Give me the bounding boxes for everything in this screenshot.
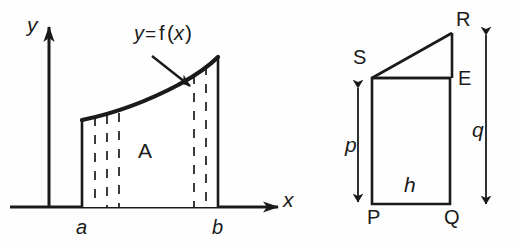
- right-diagram-group: S R E P Q p q h: [344, 8, 486, 228]
- dimension-label-p: p: [344, 133, 357, 156]
- curve-label-x: x: [173, 22, 185, 44]
- area-region: [82, 57, 218, 207]
- vertex-label-S: S: [353, 46, 366, 68]
- x-tick-label-b: b: [212, 216, 223, 238]
- region-label-A: A: [138, 139, 152, 162]
- x-tick-label-a: a: [76, 216, 87, 238]
- curve-equation-label: y = f ( x ): [132, 21, 192, 44]
- left-diagram-group: y x y = f ( x ) A a b: [10, 13, 295, 238]
- curve-label-y: y: [132, 22, 145, 44]
- edge-SR: [372, 33, 452, 78]
- x-axis-label: x: [282, 188, 295, 211]
- y-axis-label: y: [25, 13, 39, 36]
- vertex-label-P: P: [367, 206, 380, 228]
- figure-svg: y x y = f ( x ) A a b: [0, 0, 517, 248]
- curve-label-open-paren: (: [167, 21, 174, 44]
- vertex-label-Q: Q: [444, 206, 460, 228]
- curve-label-equals: =: [145, 23, 156, 44]
- vertex-label-R: R: [456, 8, 470, 30]
- curve-label-f: f: [159, 22, 165, 44]
- dimension-label-q: q: [472, 118, 484, 141]
- dimension-label-h: h: [404, 173, 416, 196]
- curve-label-close-paren: ): [185, 21, 192, 44]
- figure-root: y x y = f ( x ) A a b: [0, 0, 517, 248]
- vertex-label-E: E: [458, 67, 471, 89]
- curve-label-pointer-arrow: [152, 56, 190, 86]
